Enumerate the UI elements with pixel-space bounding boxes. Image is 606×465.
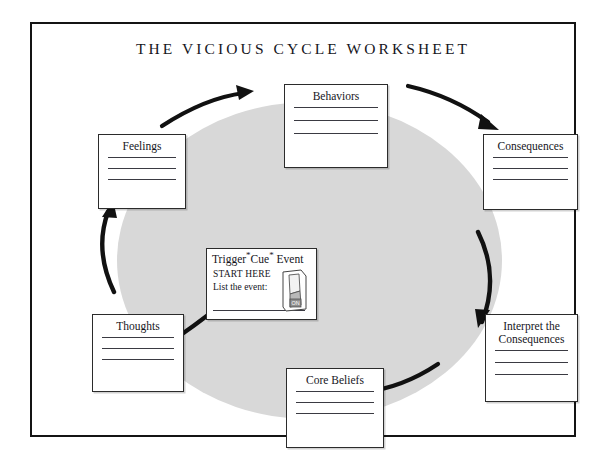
box-thoughts-label: Thoughts (93, 315, 183, 333)
arrow-consequences-to-behaviors (400, 80, 510, 136)
writing-line[interactable] (108, 179, 176, 180)
box-feelings-writing-lines[interactable] (99, 157, 185, 180)
trigger-heading-part-1: Trigger (212, 253, 246, 265)
writing-line[interactable] (294, 107, 378, 108)
writing-line[interactable] (495, 374, 568, 375)
trigger-heading: Trigger*Cue* Event (207, 249, 316, 265)
box-interpret-the-consequences[interactable]: Interpret the Consequences (485, 314, 578, 402)
box-thoughts-writing-lines[interactable] (93, 337, 183, 360)
writing-line[interactable] (108, 157, 176, 158)
writing-line[interactable] (495, 350, 568, 351)
writing-line[interactable] (493, 157, 568, 158)
box-interpret-label: Interpret the Consequences (486, 315, 577, 346)
writing-line[interactable] (296, 391, 374, 392)
box-interpret-label-line-2: Consequences (489, 333, 574, 346)
box-thoughts[interactable]: Thoughts (92, 314, 184, 392)
worksheet-frame: THE VICIOUS CYCLE WORKSHEET (30, 22, 576, 437)
box-feelings[interactable]: Feelings (98, 134, 186, 209)
writing-line[interactable] (102, 359, 174, 360)
light-switch-icon: ON (281, 269, 308, 312)
writing-line[interactable] (495, 362, 568, 363)
box-feelings-label: Feelings (99, 135, 185, 153)
writing-line[interactable] (294, 120, 378, 121)
box-consequences-label: Consequences (484, 135, 577, 153)
box-behaviors-label: Behaviors (285, 85, 387, 103)
writing-line[interactable] (108, 168, 176, 169)
box-behaviors-writing-lines[interactable] (285, 107, 387, 134)
box-behaviors[interactable]: Behaviors (284, 84, 388, 168)
switch-on-label: ON (291, 300, 299, 306)
trigger-heading-part-2: Cue (251, 253, 270, 265)
box-core-beliefs-label: Core Beliefs (287, 369, 383, 387)
worksheet-page: THE VICIOUS CYCLE WORKSHEET (0, 0, 606, 465)
box-trigger-cue-event[interactable]: Trigger*Cue* Event START HERE List the e… (206, 248, 317, 320)
writing-line[interactable] (493, 168, 568, 169)
writing-line[interactable] (296, 413, 374, 414)
page-title: THE VICIOUS CYCLE WORKSHEET (32, 40, 574, 58)
writing-line[interactable] (296, 402, 374, 403)
box-core-beliefs-writing-lines[interactable] (287, 391, 383, 414)
box-interpret-label-line-1: Interpret the (489, 320, 574, 333)
writing-line[interactable] (102, 337, 174, 338)
writing-line[interactable] (493, 179, 568, 180)
trigger-heading-part-3: Event (274, 253, 304, 265)
box-consequences[interactable]: Consequences (483, 134, 578, 210)
box-consequences-writing-lines[interactable] (484, 157, 577, 180)
box-core-beliefs[interactable]: Core Beliefs (286, 368, 384, 448)
writing-line[interactable] (102, 348, 174, 349)
writing-line[interactable] (294, 133, 378, 134)
box-interpret-writing-lines[interactable] (486, 350, 577, 375)
